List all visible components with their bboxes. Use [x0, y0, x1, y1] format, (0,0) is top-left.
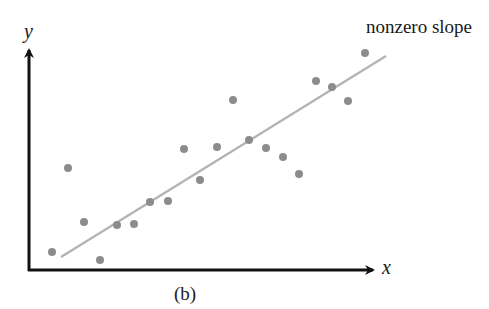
data-point — [48, 248, 56, 256]
fit-line — [61, 56, 386, 257]
data-point — [262, 144, 270, 152]
data-point — [113, 221, 121, 229]
data-points — [48, 49, 369, 264]
data-point — [96, 256, 104, 264]
data-point — [295, 170, 303, 178]
data-point — [279, 153, 287, 161]
data-point — [196, 176, 204, 184]
data-point — [64, 164, 72, 172]
fit-line-annotation: nonzero slope — [366, 16, 472, 38]
data-point — [80, 218, 88, 226]
data-point — [361, 49, 369, 57]
data-point — [146, 198, 154, 206]
data-point — [180, 145, 188, 153]
data-point — [164, 197, 172, 205]
regression-line — [61, 56, 386, 257]
x-axis-label: x — [382, 256, 391, 279]
y-axis-label: y — [24, 20, 33, 43]
data-point — [130, 220, 138, 228]
data-point — [229, 96, 237, 104]
data-point — [245, 136, 253, 144]
scatter-figure: y x nonzero slope (b) — [0, 0, 489, 309]
data-point — [344, 97, 352, 105]
figure-caption: (b) — [174, 283, 196, 305]
data-point — [213, 143, 221, 151]
data-point — [328, 83, 336, 91]
data-point — [312, 77, 320, 85]
scatter-plot-canvas — [0, 0, 489, 309]
